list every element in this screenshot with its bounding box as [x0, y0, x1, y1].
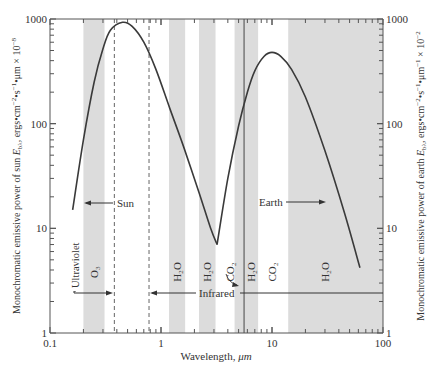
- band-label: H₂O: [201, 262, 213, 282]
- band-label: O₃: [88, 266, 100, 278]
- sun-label: Sun: [117, 197, 135, 209]
- x-tick-label: 10: [267, 337, 279, 349]
- x-tick-label: 1: [158, 337, 164, 349]
- y-tick-label-left: 100: [31, 118, 48, 130]
- y-tick-label-right: 1000: [386, 13, 409, 25]
- band-label: H₂O: [319, 262, 331, 282]
- y-tick-label-right: 1: [386, 327, 392, 339]
- infrared-label: Infrared: [199, 287, 235, 299]
- absorption-band: [83, 19, 104, 333]
- absorption-band: [288, 19, 383, 333]
- y-tick-label-left: 10: [36, 222, 48, 234]
- absorption-band: [169, 19, 185, 333]
- band-label: H₂O: [171, 262, 183, 282]
- band-label: H₂O: [245, 262, 257, 282]
- y-tick-label-right: 100: [386, 118, 403, 130]
- ultraviolet-arrow-head-icon: [106, 291, 113, 296]
- earth-label: Earth: [259, 196, 283, 208]
- absorption-band: [199, 19, 216, 333]
- chart-svg: 0.111010011010010001101001000 O₃H₂OH₂OCO…: [0, 0, 434, 370]
- absorption-band: [243, 19, 258, 333]
- y-tick-label-left: 1000: [25, 13, 48, 25]
- emissive-power-chart: 0.111010011010010001101001000 O₃H₂OH₂OCO…: [0, 0, 434, 370]
- ultraviolet-label: Ultraviolet: [70, 242, 81, 288]
- band-label: CO₂: [266, 262, 278, 281]
- band-label: CO₂: [224, 262, 236, 281]
- y-tick-label-right: 10: [386, 222, 398, 234]
- x-axis-title: Wavelength, μm: [180, 350, 251, 362]
- y-tick-label-left: 1: [42, 327, 48, 339]
- y-axis-right-title: Monochromatic emissive power of earth Eb…: [414, 31, 428, 321]
- y-axis-left-title: Monochromatic emissive power of sun Ebλ,…: [10, 38, 24, 314]
